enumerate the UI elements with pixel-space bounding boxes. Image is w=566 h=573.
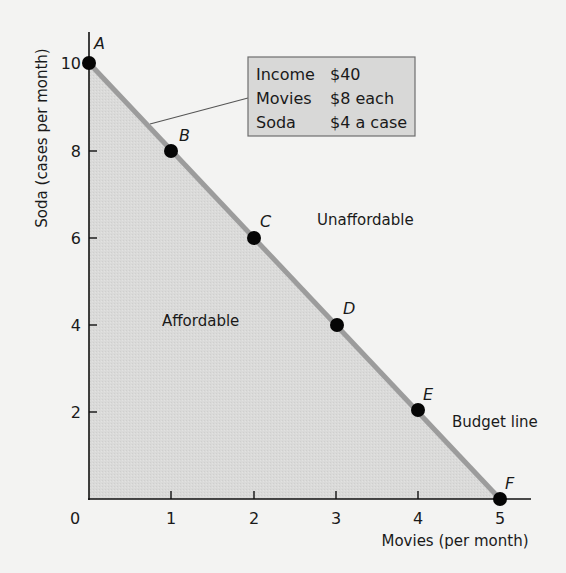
info-key-movies: Movies: [256, 89, 312, 108]
y-tick-label: 10: [61, 54, 81, 73]
y-tick-label: 2: [71, 403, 81, 422]
y-tick-label: 4: [71, 316, 81, 335]
y-tick-label: 8: [71, 142, 81, 161]
y-tick-label: 6: [71, 229, 81, 248]
info-box: Income $40 Movies $8 each Soda $4 a case: [248, 57, 415, 136]
point-label-a: A: [93, 34, 105, 53]
x-tick-label: 0: [70, 509, 80, 528]
info-key-income: Income: [256, 65, 315, 84]
x-tick-labels: 0 1 2 3 4 5: [70, 509, 505, 528]
point-f: [493, 492, 507, 506]
point-label-d: D: [343, 299, 355, 318]
y-tick-labels: 10 8 6 4 2: [61, 54, 81, 422]
info-value-movies: $8 each: [330, 89, 394, 108]
budget-line-chart: 10 8 6 4 2 0 1 2 3 4 5 Movies (per month…: [0, 0, 566, 573]
point-d: [330, 318, 344, 332]
x-tick-label: 2: [249, 509, 259, 528]
x-tick-label: 1: [166, 509, 176, 528]
info-value-income: $40: [330, 65, 361, 84]
info-key-soda: Soda: [256, 113, 296, 132]
info-box-leader-line: [150, 98, 248, 124]
x-tick-label: 4: [413, 509, 423, 528]
point-label-b: B: [179, 126, 190, 145]
point-b: [164, 144, 178, 158]
unaffordable-label: Unaffordable: [317, 211, 414, 229]
x-tick-label: 5: [495, 509, 505, 528]
budget-line-label: Budget line: [452, 413, 538, 431]
x-tick-label: 3: [331, 509, 341, 528]
point-label-c: C: [260, 212, 272, 231]
point-c: [247, 231, 261, 245]
y-axis-title: Soda (cases per month): [33, 48, 51, 227]
point-label-e: E: [423, 385, 434, 404]
point-e: [411, 403, 425, 417]
point-label-f: F: [505, 474, 515, 493]
info-value-soda: $4 a case: [330, 113, 407, 132]
point-a: [82, 56, 96, 70]
x-axis-title: Movies (per month): [381, 532, 528, 550]
affordable-label: Affordable: [162, 312, 239, 330]
